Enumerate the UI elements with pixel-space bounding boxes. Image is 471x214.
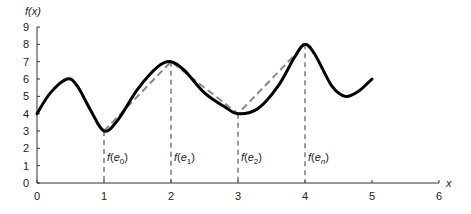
x-tick-label: 2 (168, 190, 174, 202)
y-tick-label: 6 (23, 73, 29, 85)
point-label: f(e0) (107, 151, 128, 166)
chart-container: 01234560123456789f(x)x f(e0)f(e1)f(e2)f(… (0, 0, 471, 214)
line-chart: 01234560123456789f(x)x f(e0)f(e1)f(e2)f(… (0, 0, 471, 214)
y-tick-label: 3 (23, 125, 29, 137)
y-tick-label: 7 (23, 56, 29, 68)
point-label: f(e2) (241, 151, 262, 166)
x-tick-label: 5 (369, 190, 375, 202)
x-tick-label: 6 (436, 190, 442, 202)
x-tick-label: 1 (101, 190, 107, 202)
y-tick-label: 9 (23, 21, 29, 33)
y-tick-label: 4 (23, 108, 29, 120)
dashed-guides (104, 44, 305, 183)
linear-approximation (104, 44, 305, 131)
y-axis-label: f(x) (25, 5, 41, 17)
point-label: f(e1) (174, 151, 195, 166)
x-axis-label: x (445, 177, 452, 189)
y-tick-label: 0 (23, 177, 29, 189)
y-tick-label: 8 (23, 38, 29, 50)
y-tick-label: 1 (23, 160, 29, 172)
point-label: f(en) (308, 151, 329, 166)
x-tick-label: 0 (34, 190, 40, 202)
y-tick-label: 2 (23, 142, 29, 154)
y-tick-label: 5 (23, 90, 29, 102)
x-tick-label: 4 (302, 190, 308, 202)
x-tick-label: 3 (235, 190, 241, 202)
annotation-labels: f(e0)f(e1)f(e2)f(en) (107, 151, 329, 166)
